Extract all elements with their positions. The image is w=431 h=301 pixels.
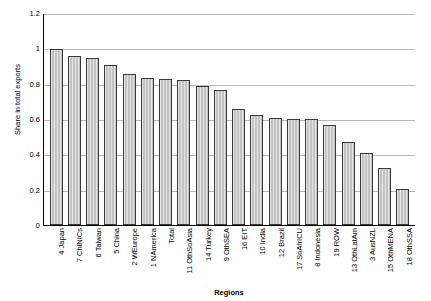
bar bbox=[50, 49, 63, 225]
y-axis-tick-label: 0 bbox=[6, 222, 40, 230]
x-axis-tick-slot: 14 Turkey bbox=[192, 228, 210, 284]
y-axis-tick-label: 0.8 bbox=[6, 81, 40, 89]
bar bbox=[269, 118, 282, 225]
x-axis-tick-slot: 4 Japan bbox=[46, 228, 64, 284]
bar bbox=[232, 109, 245, 225]
bar-slot bbox=[193, 14, 211, 225]
bar-slot bbox=[120, 14, 138, 225]
x-axis-tick-slot: 19 ROW bbox=[320, 228, 338, 284]
bar-slot bbox=[84, 14, 102, 225]
bar-slot bbox=[211, 14, 229, 225]
bar-series bbox=[44, 14, 415, 225]
bar bbox=[177, 80, 190, 225]
bar bbox=[86, 58, 99, 225]
bar bbox=[323, 125, 336, 225]
bar bbox=[360, 153, 373, 225]
x-axis-tick-slot: 15 OthMENA bbox=[375, 228, 393, 284]
x-axis-ticks: 4 Japan7 ChiNICs6 Taiwan5 China2 WEurope… bbox=[43, 228, 415, 284]
y-axis-tick-label: 0.2 bbox=[6, 187, 40, 195]
y-axis-tick-label: 1 bbox=[6, 45, 40, 53]
bar-slot bbox=[303, 14, 321, 225]
bar-slot bbox=[339, 14, 357, 225]
x-axis-tick-slot: 18 OthSSA bbox=[394, 228, 412, 284]
x-axis-tick-slot: 10 India bbox=[247, 228, 265, 284]
x-axis-tick-slot: 12 Brazil bbox=[266, 228, 284, 284]
y-axis-tick-label: 1.2 bbox=[6, 10, 40, 18]
x-axis-tick-slot: 8 Indonesia bbox=[302, 228, 320, 284]
x-axis-tick-slot: 11 OthSoAsia bbox=[174, 228, 192, 284]
bar-slot bbox=[357, 14, 375, 225]
x-axis-tick-slot: 16 EIT bbox=[229, 228, 247, 284]
x-axis-tick-slot: 2 WEurope bbox=[119, 228, 137, 284]
bar bbox=[68, 56, 81, 225]
bar bbox=[342, 142, 355, 225]
bar-slot bbox=[65, 14, 83, 225]
plot-area bbox=[43, 14, 415, 226]
bar-slot bbox=[266, 14, 284, 225]
bar bbox=[141, 78, 154, 225]
bar-slot bbox=[157, 14, 175, 225]
bar bbox=[287, 119, 300, 225]
bar bbox=[104, 65, 117, 225]
bar bbox=[123, 74, 136, 225]
bar-slot bbox=[284, 14, 302, 225]
x-axis-tick-slot: 9 OthSEA bbox=[211, 228, 229, 284]
y-axis-tick-label: 0.4 bbox=[6, 151, 40, 159]
x-axis-tick-label: 18 OthSSA bbox=[406, 228, 414, 266]
bar bbox=[250, 115, 263, 225]
x-axis-tick-slot: 6 Taiwan bbox=[83, 228, 101, 284]
bar-chart: 00.20.40.60.811.2 Share in total exports… bbox=[0, 0, 431, 301]
x-axis-tick-slot: 7 ChiNICs bbox=[64, 228, 82, 284]
x-axis-tick-slot: 17 SoAfrICU bbox=[284, 228, 302, 284]
bar-slot bbox=[394, 14, 412, 225]
bar-slot bbox=[230, 14, 248, 225]
bar bbox=[214, 90, 227, 225]
bar bbox=[378, 168, 391, 225]
x-axis-tick-slot: Total bbox=[156, 228, 174, 284]
x-axis-tick-slot: 3 AusNZL bbox=[357, 228, 375, 284]
bar bbox=[196, 86, 209, 225]
x-axis-label: Regions bbox=[43, 288, 415, 297]
x-axis-tick-slot: 1 NAmerica bbox=[137, 228, 155, 284]
x-axis-tick-slot: 5 China bbox=[101, 228, 119, 284]
y-axis-label: Share in total exports bbox=[13, 35, 22, 165]
bar bbox=[305, 119, 318, 225]
bar bbox=[159, 79, 172, 225]
bar-slot bbox=[376, 14, 394, 225]
bar-slot bbox=[47, 14, 65, 225]
x-axis-tick-slot: 13 OthLatAm bbox=[339, 228, 357, 284]
bar-slot bbox=[138, 14, 156, 225]
bar-slot bbox=[102, 14, 120, 225]
bar-slot bbox=[248, 14, 266, 225]
bar-slot bbox=[175, 14, 193, 225]
y-axis-tick-label: 0.6 bbox=[6, 116, 40, 124]
bar-slot bbox=[321, 14, 339, 225]
bar bbox=[396, 189, 409, 225]
